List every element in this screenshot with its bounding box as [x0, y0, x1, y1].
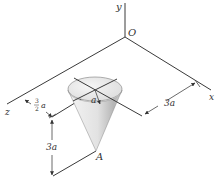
dimension-label-3a-x: 3a — [164, 98, 175, 108]
svg-text:a: a — [41, 101, 46, 110]
svg-text:3: 3 — [35, 97, 39, 104]
z-axis-label: z — [4, 107, 10, 117]
dimension-label-3-2-a: 3 2 a — [34, 97, 46, 112]
dimension-3a-x — [145, 80, 200, 114]
svg-text:2: 2 — [35, 105, 39, 112]
y-axis-label: y — [115, 1, 122, 12]
cone — [68, 77, 142, 151]
origin-label: O — [128, 27, 136, 38]
apex-label: A — [95, 151, 103, 162]
x-axis — [125, 37, 211, 90]
ref-line-apex — [53, 151, 96, 176]
radius-label: a — [91, 95, 96, 105]
dim-ext-line-x — [195, 80, 200, 87]
dim-ext-top — [49, 114, 56, 118]
cone-axes-diagram: y O x z A a 3a 3a 3 2 a — [0, 0, 218, 185]
dimension-label-3a-height: 3a — [46, 142, 57, 152]
x-axis-label: x — [209, 92, 214, 102]
